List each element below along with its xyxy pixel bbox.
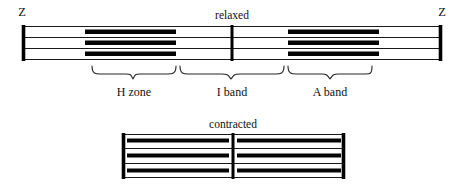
i-band-brace [180, 66, 284, 79]
relaxed-title: relaxed [215, 9, 249, 21]
h-zone-brace [92, 66, 176, 79]
relaxed-myosin-left [85, 32, 176, 54]
contracted-myosin-right [237, 141, 341, 171]
contracted-sarcomere-group: contracted [122, 118, 345, 179]
a-band-label: A band [313, 85, 347, 99]
z-label-right: Z [438, 5, 446, 19]
sarcomere-figure: relaxed Z Z [0, 0, 464, 194]
a-band-brace [288, 66, 372, 79]
i-band-label: I band [217, 85, 247, 99]
sarcomere-diagram-svg: relaxed Z Z [0, 0, 464, 194]
z-label-left: Z [18, 5, 26, 19]
band-annotations-group: H zone I band A band [92, 66, 372, 99]
relaxed-sarcomere-group: relaxed Z Z [18, 5, 446, 61]
contracted-myosin-left [127, 141, 229, 171]
h-zone-label: H zone [117, 85, 151, 99]
contracted-title: contracted [209, 118, 257, 130]
relaxed-myosin-right [288, 32, 379, 54]
